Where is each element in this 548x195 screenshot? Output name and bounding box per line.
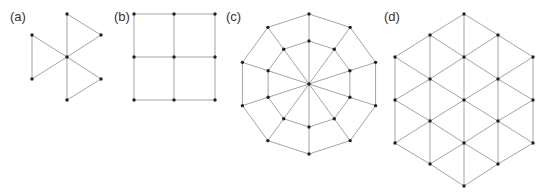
graph-node xyxy=(348,139,351,142)
graph-node xyxy=(496,77,499,80)
graph-edge xyxy=(350,97,376,105)
graph-edge xyxy=(32,57,67,79)
graph-edge xyxy=(498,121,533,143)
graph-edge xyxy=(395,79,430,100)
graph-node xyxy=(307,152,310,155)
graph-edge xyxy=(464,57,498,79)
graph-node xyxy=(65,98,68,101)
graph-node xyxy=(531,141,534,144)
graph-node xyxy=(266,139,269,142)
graph-edge xyxy=(498,79,533,100)
panel-label-b: (b) xyxy=(114,9,130,24)
graph-edge xyxy=(350,27,375,62)
graph-node xyxy=(462,55,465,58)
graph-node xyxy=(213,12,216,15)
graph-edge xyxy=(268,84,309,97)
graph-node xyxy=(307,125,310,128)
graph-edge xyxy=(268,97,284,119)
graph-edge xyxy=(464,143,498,164)
graph-edge xyxy=(430,121,464,143)
graph-node xyxy=(266,69,269,72)
graph-node xyxy=(307,12,310,15)
graph-edge xyxy=(464,35,498,57)
graph-node xyxy=(348,69,351,72)
graph-node xyxy=(348,26,351,29)
graph-node xyxy=(496,119,499,122)
graph-node xyxy=(496,162,499,165)
graph-node xyxy=(65,55,68,58)
panel-label-c: (c) xyxy=(226,9,241,24)
graph-edge xyxy=(430,57,464,79)
graph-node xyxy=(307,82,310,85)
graph-edge xyxy=(350,62,376,70)
graph-edge xyxy=(309,14,350,27)
graph-edge xyxy=(334,49,350,71)
graph-edge xyxy=(464,121,498,143)
graph-edge xyxy=(498,35,533,57)
graph-edge xyxy=(67,14,101,35)
graph-edge xyxy=(430,79,464,100)
graph-edge xyxy=(395,100,430,121)
graph-node xyxy=(266,96,269,99)
graph-edge xyxy=(309,41,334,49)
graph-edge xyxy=(334,27,350,49)
graph-edge xyxy=(242,62,268,70)
graph-edge xyxy=(242,27,267,62)
graph-node xyxy=(99,77,102,80)
graph-node xyxy=(428,33,431,36)
graph-edge xyxy=(334,97,350,119)
panel-a: (a) xyxy=(10,9,103,102)
graph-edge xyxy=(498,100,533,121)
graph-node xyxy=(241,104,244,107)
graph-node xyxy=(99,33,102,36)
graph-node xyxy=(172,98,175,101)
graph-node xyxy=(428,162,431,165)
graph-node xyxy=(374,104,377,107)
graph-edge xyxy=(284,41,309,49)
graph-node xyxy=(462,12,465,15)
graph-node xyxy=(266,26,269,29)
graph-edge xyxy=(67,35,101,57)
panel-b: (b) xyxy=(114,9,217,102)
graph-edge xyxy=(284,84,309,119)
graph-node xyxy=(333,117,336,120)
panel-label-a: (a) xyxy=(10,9,26,24)
graph-edge xyxy=(309,84,334,119)
graph-edge xyxy=(67,57,101,79)
graph-edge xyxy=(268,71,309,84)
panel-label-d: (d) xyxy=(384,9,400,24)
graph-node xyxy=(374,61,377,64)
graph-node xyxy=(213,98,216,101)
graph-node xyxy=(333,48,336,51)
graph-edge xyxy=(268,119,284,141)
graph-node xyxy=(462,98,465,101)
graph-figure: (a) (b) (c) (d) xyxy=(0,0,548,195)
graph-edge xyxy=(284,119,309,127)
graph-edge xyxy=(268,27,284,49)
graph-node xyxy=(393,141,396,144)
graph-node xyxy=(172,12,175,15)
graph-edge xyxy=(430,35,464,57)
graph-node xyxy=(241,61,244,64)
graph-edge xyxy=(350,106,375,141)
graph-edge xyxy=(284,49,309,84)
graph-edge xyxy=(268,14,309,27)
graph-edge xyxy=(395,121,430,143)
graph-node xyxy=(282,117,285,120)
graph-edge xyxy=(498,143,533,164)
graph-edge xyxy=(464,79,498,100)
graph-edge xyxy=(268,49,284,71)
graph-edge xyxy=(430,164,464,186)
graph-node xyxy=(213,55,216,58)
graph-edge xyxy=(242,106,267,141)
graph-edge xyxy=(464,14,498,35)
graph-node xyxy=(307,39,310,42)
graph-edge xyxy=(309,49,334,84)
graph-edge xyxy=(395,143,430,164)
graph-edge xyxy=(395,57,430,79)
graph-node xyxy=(132,12,135,15)
graph-node xyxy=(393,98,396,101)
graph-edge xyxy=(242,97,268,105)
graph-node xyxy=(172,55,175,58)
graph-node xyxy=(462,184,465,187)
